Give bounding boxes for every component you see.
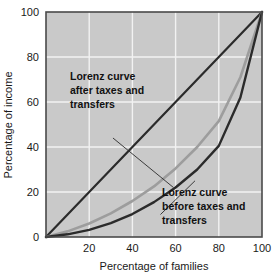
y-tick-label: 100 [21,6,39,18]
x-tick-label: 60 [169,242,181,254]
annotation-before-line1: Lorenz curve [162,186,228,198]
x-tick-label: 40 [126,242,138,254]
y-tick-label: 20 [27,186,39,198]
y-axis-tick-labels: 020406080100 [21,6,39,243]
annotation-after-line2: after taxes and [70,84,144,96]
x-tick-label: 100 [253,242,271,254]
x-tick-label: 80 [213,242,225,254]
chart-canvas: 20406080100 020406080100 Lorenz curve af… [0,0,274,278]
annotation-after-line1: Lorenz curve [70,70,136,82]
annotation-before-line3: transfers [162,214,207,226]
x-tick-label: 20 [83,242,95,254]
annotation-after-line3: transfers [70,98,115,110]
y-axis-title: Percentage of income [2,71,14,178]
annotation-before-line2: before taxes and [162,200,245,212]
x-axis-tick-labels: 20406080100 [83,242,271,254]
y-tick-label: 60 [27,96,39,108]
lorenz-curve-figure: 20406080100 020406080100 Lorenz curve af… [0,0,274,278]
x-axis-title: Percentage of families [100,260,209,272]
y-tick-label: 80 [27,51,39,63]
y-tick-label: 40 [27,141,39,153]
y-tick-label: 0 [33,231,39,243]
